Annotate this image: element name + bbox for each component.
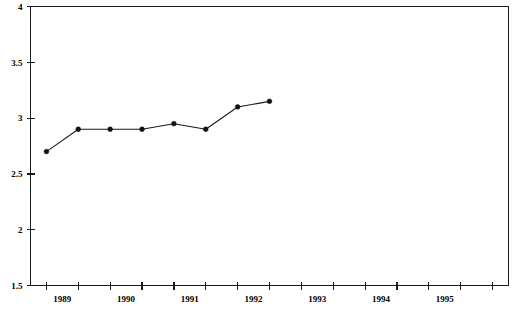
data-point-marker (267, 99, 272, 104)
x-tick-label: 1990 (117, 294, 136, 304)
y-tick-label: 3 (18, 113, 23, 123)
data-point-marker (203, 127, 208, 132)
y-axis-tick-labels: 1.522.533.54 (11, 2, 23, 291)
line-chart: 1.522.533.54 198919901991199219931994199… (0, 0, 516, 320)
x-tick-label: 1992 (245, 294, 264, 304)
chart-axes (31, 7, 509, 286)
x-axis-tick-labels: 1989199019911992199319941995 (53, 294, 454, 304)
data-series-group (44, 99, 272, 154)
data-point-marker (108, 127, 113, 132)
y-tick-label: 2.5 (11, 169, 23, 179)
data-point-marker (235, 105, 240, 110)
x-tick-label: 1993 (308, 294, 327, 304)
x-tick-label: 1994 (372, 294, 391, 304)
x-tick-label: 1989 (53, 294, 72, 304)
y-tick-label: 4 (18, 2, 23, 12)
x-tick-label: 1991 (181, 294, 200, 304)
y-tick-label: 3.5 (11, 58, 23, 68)
data-point-marker (76, 127, 81, 132)
data-point-marker (44, 149, 49, 154)
y-tick-label: 2 (18, 225, 23, 235)
data-point-marker (172, 121, 177, 126)
chart-canvas: 1.522.533.54 198919901991199219931994199… (0, 0, 516, 320)
x-tick-label: 1995 (436, 294, 455, 304)
data-point-marker (140, 127, 145, 132)
y-tick-label: 1.5 (11, 281, 23, 291)
